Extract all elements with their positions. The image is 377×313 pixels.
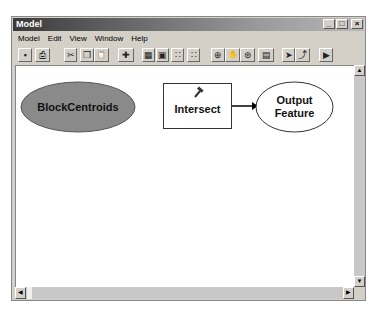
output-node-label-1: Output	[276, 94, 312, 107]
scroll-down-button[interactable]: ▼	[354, 276, 365, 287]
copy-icon: ❐	[83, 50, 91, 60]
menu-window[interactable]: Window	[91, 32, 127, 45]
scroll-up-button[interactable]: ▲	[354, 65, 365, 76]
layout-full-icon: ▣	[158, 50, 167, 60]
scroll-thumb[interactable]	[27, 287, 32, 299]
toolbar: ▪ ⎙ ✂ ❐ 📋 ✚ ▦ ▣ ∷ ∷ ⊕ ✋ ⊛ ▤ ➤ ⤴ ▶	[14, 47, 363, 63]
tool-node-intersect[interactable]: Intersect	[163, 94, 232, 124]
cut-button[interactable]: ✂	[64, 48, 77, 62]
horizontal-scrollbar[interactable]: ◀ ▶	[15, 287, 354, 299]
scroll-left-button[interactable]: ◀	[15, 287, 26, 299]
close-button[interactable]: ×	[351, 19, 363, 29]
output-node[interactable]: Output Feature	[256, 82, 333, 132]
scroll-right-button[interactable]: ▶	[343, 287, 354, 299]
model-canvas[interactable]: BlockCentroids Intersect Output Feature	[15, 65, 354, 287]
maximize-button[interactable]: □	[336, 19, 348, 29]
properties-button[interactable]: ▤	[258, 48, 274, 62]
menu-view[interactable]: View	[66, 32, 91, 45]
pan-button[interactable]: ✋	[225, 48, 240, 62]
zoom-full-button[interactable]: ⊛	[240, 48, 255, 62]
print-button[interactable]: ⎙	[35, 48, 50, 62]
menu-edit[interactable]: Edit	[44, 32, 66, 45]
connect-icon: ⤴	[298, 50, 307, 60]
input-node-blockcentroids[interactable]: BlockCentroids	[21, 82, 135, 132]
layout-dots-button[interactable]: ∷	[171, 48, 184, 62]
paste-icon: 📋	[97, 51, 106, 58]
layout-dots-icon: ∷	[175, 50, 181, 60]
layout-grid-button[interactable]: ▦	[142, 48, 155, 62]
copy-button[interactable]: ❐	[80, 48, 94, 62]
tool-node-label: Intersect	[175, 103, 221, 115]
connect-button[interactable]: ⤴	[295, 48, 310, 62]
vertical-scrollbar[interactable]: ▲ ▼	[354, 65, 365, 287]
cut-icon: ✂	[67, 50, 75, 60]
select-icon: ➤	[285, 50, 293, 60]
resize-grip[interactable]	[354, 287, 365, 299]
zoom-in-button[interactable]: ⊕	[211, 48, 225, 62]
output-node-label-2: Feature	[275, 107, 315, 120]
pan-icon: ✋	[228, 50, 238, 59]
select-button[interactable]: ➤	[282, 48, 295, 62]
menu-help[interactable]: Help	[127, 32, 151, 45]
save-icon: ▪	[23, 50, 26, 60]
add-data-icon: ✚	[122, 50, 130, 60]
title-bar[interactable]: Model _ □ ×	[13, 18, 364, 31]
add-data-button[interactable]: ✚	[118, 48, 134, 62]
run-icon: ▶	[323, 50, 330, 60]
window-title: Model	[16, 18, 42, 31]
menu-model[interactable]: Model	[14, 32, 44, 45]
run-button[interactable]: ▶	[319, 48, 333, 62]
properties-icon: ▤	[262, 50, 271, 60]
paste-button[interactable]: 📋	[94, 48, 109, 62]
print-icon: ⎙	[39, 50, 46, 60]
minimize-button[interactable]: _	[323, 19, 335, 29]
input-node-label: BlockCentroids	[37, 101, 118, 113]
layout-dots2-icon: ∷	[191, 50, 197, 60]
zoom-in-icon: ⊕	[214, 50, 222, 60]
save-button[interactable]: ▪	[18, 48, 32, 62]
layout-full-button[interactable]: ▣	[156, 48, 169, 62]
zoom-full-icon: ⊛	[244, 50, 252, 60]
model-window: Model _ □ × Model Edit View Window Help …	[11, 16, 366, 301]
menu-bar: Model Edit View Window Help	[14, 32, 152, 45]
layout-grid-icon: ▦	[144, 50, 153, 60]
layout-dots2-button[interactable]: ∷	[187, 48, 200, 62]
